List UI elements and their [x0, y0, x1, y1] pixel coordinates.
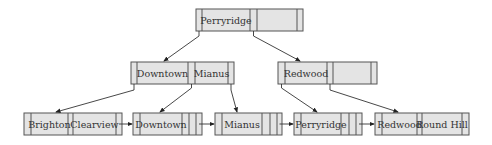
- internal-key: Downtown: [137, 68, 188, 79]
- leaf-key: Perryridge: [295, 119, 347, 130]
- leaf-node-5: Redwood Round Hill: [375, 113, 469, 135]
- leaf-node-4: Perryridge: [294, 113, 362, 135]
- leaf-key: Downtown: [135, 119, 186, 130]
- internal-node-left: Downtown Mianus: [131, 62, 234, 84]
- b-plus-tree-diagram: Perryridge Downtown Mianus Redwood Brigh…: [0, 0, 492, 145]
- root-key: Perryridge: [200, 15, 252, 26]
- leaf-key: Clearview: [70, 119, 118, 130]
- root-node: Perryridge: [196, 9, 303, 31]
- edge-internal-left-to-leaf-2: [160, 84, 192, 112]
- internal-node-right: Redwood: [278, 62, 377, 84]
- leaf-key: Round Hill: [416, 119, 468, 130]
- leaf-key: Mianus: [224, 119, 260, 130]
- internal-key: Mianus: [194, 68, 230, 79]
- edge-root-to-internal-right: [254, 31, 301, 61]
- internal-key: Redwood: [284, 68, 329, 79]
- edge-internal-right-to-leaf-5: [330, 84, 398, 112]
- edge-internal-left-to-leaf-3: [231, 84, 237, 112]
- leaf-node-1: Brighton Clearview: [24, 113, 122, 135]
- leaf-key: Redwood: [377, 119, 422, 130]
- edge-root-to-internal-left: [164, 31, 199, 61]
- edge-internal-left-to-leaf-1: [56, 84, 134, 112]
- leaf-node-2: Downtown: [133, 113, 202, 135]
- leaf-key: Brighton: [28, 119, 70, 130]
- leaf-node-3: Mianus: [215, 113, 282, 135]
- edge-internal-right-to-leaf-4: [282, 84, 318, 112]
